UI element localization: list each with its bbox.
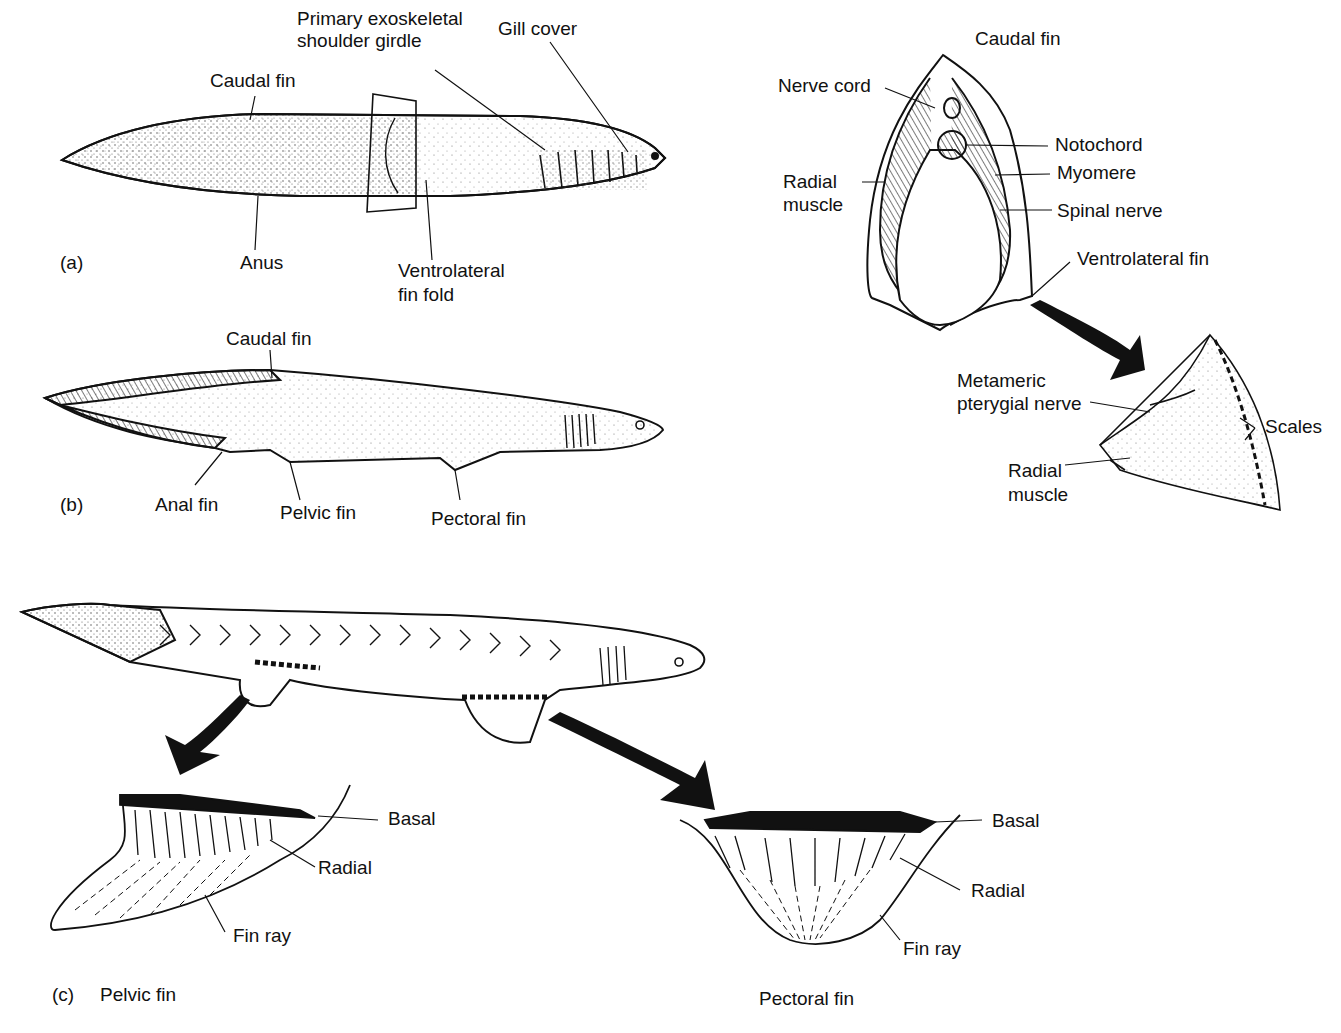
cross-section <box>862 55 1070 330</box>
arrow-to-pelvic-fin <box>165 695 250 775</box>
fin-detail-metameric-label-2: pterygial nerve <box>957 393 1082 415</box>
panel-a-tag: (a) <box>60 252 83 274</box>
pelvic-radial-label: Radial <box>318 857 372 879</box>
panel-c-tag: (c) <box>52 984 74 1006</box>
panel-a-primary-girdle-label-1: Primary exoskeletal <box>297 8 463 30</box>
fin-detail-radial-muscle-label-1: Radial <box>1008 460 1062 482</box>
panel-a-ventrolateral-label-1: Ventrolateral <box>398 260 505 282</box>
cross-section-ventrolateral-fin-label: Ventrolateral fin <box>1077 248 1209 270</box>
fin-detail-metameric-label-1: Metameric <box>957 370 1046 392</box>
panel-c-fish <box>22 604 704 743</box>
cross-section-spinal-nerve-label: Spinal nerve <box>1057 200 1163 222</box>
panel-a-fish <box>62 42 665 260</box>
cross-section-nerve-cord-label: Nerve cord <box>778 75 871 97</box>
pectoral-radial-label: Radial <box>971 880 1025 902</box>
panel-a-ventrolateral-label-2: fin fold <box>398 284 454 306</box>
fin-detail-radial-muscle-label-2: muscle <box>1008 484 1068 506</box>
panel-b-fish <box>45 350 663 500</box>
fin-detail <box>1065 335 1280 510</box>
panel-a-primary-girdle-label-2: shoulder girdle <box>297 30 422 52</box>
panel-a-caudal-fin-label: Caudal fin <box>210 70 296 92</box>
pectoral-basal-label: Basal <box>992 810 1040 832</box>
pectoral-fin-detail <box>680 812 982 944</box>
panel-a-anus-label: Anus <box>240 252 283 274</box>
arrow-to-pectoral-fin <box>548 712 715 810</box>
panel-b-caudal-fin-label: Caudal fin <box>226 328 312 350</box>
cross-section-notochord-label: Notochord <box>1055 134 1143 156</box>
panel-b-anal-fin-label: Anal fin <box>155 494 218 516</box>
cross-section-radial-muscle-label-2: muscle <box>783 194 843 216</box>
panel-b-pelvic-fin-label: Pelvic fin <box>280 502 356 524</box>
cross-section-myomere-label: Myomere <box>1057 162 1136 184</box>
pelvic-fin-ray-label: Fin ray <box>233 925 291 947</box>
pelvic-fin-title: Pelvic fin <box>100 984 176 1006</box>
cross-section-caudal-fin-label: Caudal fin <box>975 28 1061 50</box>
arrow-to-fin-detail <box>1030 300 1145 380</box>
pectoral-fin-ray-label: Fin ray <box>903 938 961 960</box>
cross-section-radial-muscle-label-1: Radial <box>783 171 837 193</box>
fin-detail-scales-label: Scales <box>1265 416 1322 438</box>
panel-b-pectoral-fin-label: Pectoral fin <box>431 508 526 530</box>
pectoral-fin-title: Pectoral fin <box>759 988 854 1010</box>
panel-a-gill-cover-label: Gill cover <box>498 18 577 40</box>
panel-b-tag: (b) <box>60 494 83 516</box>
pelvic-basal-label: Basal <box>388 808 436 830</box>
